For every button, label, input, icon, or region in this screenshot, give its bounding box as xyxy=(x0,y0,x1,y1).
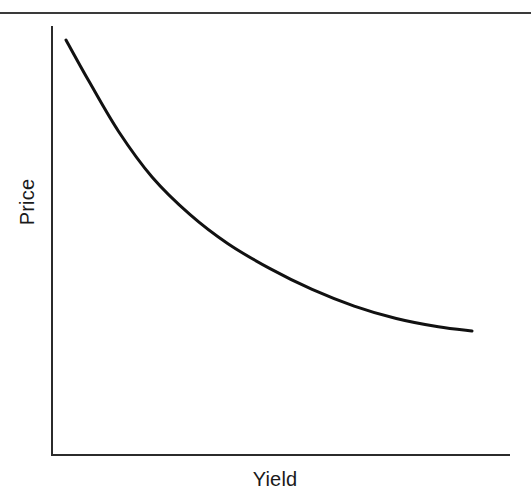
x-axis-label: Yield xyxy=(253,468,298,491)
price-yield-curve-line xyxy=(66,40,472,331)
chart-figure: Price Yield xyxy=(0,0,531,500)
plot-area xyxy=(0,0,531,500)
